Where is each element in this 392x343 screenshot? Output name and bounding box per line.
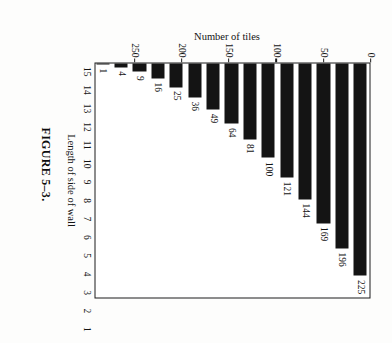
plot-frame: 149162536496481100121144169196225 xyxy=(94,62,370,298)
bar-row: 4 xyxy=(114,63,127,299)
category-axis-title: Length of side of wall xyxy=(65,62,76,298)
bar-value-label: 100 xyxy=(263,161,273,175)
bar-chart: 050100150200250 Number of tiles 14916253… xyxy=(80,30,370,298)
bar xyxy=(335,63,348,248)
category-axis: 123456789101112131415 xyxy=(76,62,94,298)
bar-value-label: 81 xyxy=(245,143,255,153)
bar-row: 9 xyxy=(132,63,145,299)
bar xyxy=(353,63,366,275)
bar-row: 36 xyxy=(188,63,201,299)
bar xyxy=(132,63,145,71)
bar-value-label: 144 xyxy=(300,203,310,217)
bar-row: 225 xyxy=(353,63,366,299)
bar-row: 16 xyxy=(151,63,164,299)
rotated-figure-wrapper: 050100150200250 Number of tiles 14916253… xyxy=(0,0,392,343)
category-tick-label: 4 xyxy=(81,271,91,276)
value-tick-mark xyxy=(181,58,182,62)
bar-row: 81 xyxy=(243,63,256,299)
value-tick-label: 50 xyxy=(318,48,328,58)
value-tick-mark xyxy=(369,58,370,62)
category-tick-label: 15 xyxy=(81,66,91,76)
category-tick-label: 13 xyxy=(81,103,91,113)
bar-row: 100 xyxy=(261,63,274,299)
value-tick-mark xyxy=(228,58,229,62)
category-tick-label: 7 xyxy=(81,216,91,221)
category-tick-label: 8 xyxy=(81,198,91,203)
bar-value-label: 9 xyxy=(134,75,144,80)
category-tick-label: 5 xyxy=(81,253,91,258)
bar-value-label: 49 xyxy=(208,113,218,123)
bar-value-label: 196 xyxy=(337,252,347,266)
bar-value-label: 1 xyxy=(97,68,107,73)
figure-caption: FIGURE 5–3. xyxy=(37,30,52,298)
bar xyxy=(280,63,293,177)
bar xyxy=(316,63,329,223)
bar xyxy=(261,63,274,157)
bar-value-label: 16 xyxy=(153,82,163,92)
bar-value-label: 25 xyxy=(171,91,181,101)
bar-value-label: 169 xyxy=(318,227,328,241)
bar-value-label: 64 xyxy=(226,127,236,137)
bar-row: 121 xyxy=(280,63,293,299)
category-tick-label: 2 xyxy=(81,308,91,313)
value-tick-mark xyxy=(275,58,276,62)
bar xyxy=(151,63,164,78)
category-tick-label: 6 xyxy=(81,234,91,239)
bar xyxy=(169,63,182,87)
bar xyxy=(206,63,219,109)
bar xyxy=(114,63,127,67)
bar-value-label: 225 xyxy=(355,279,365,293)
bar-value-label: 121 xyxy=(281,181,291,195)
value-tick-label: 100 xyxy=(271,43,281,57)
category-tick-label: 14 xyxy=(81,85,91,95)
category-tick-label: 11 xyxy=(81,140,91,149)
bar xyxy=(298,63,311,199)
bar xyxy=(243,63,256,139)
category-tick-label: 10 xyxy=(81,158,91,168)
value-axis-title: Number of tiles xyxy=(117,31,337,42)
page-background: 050100150200250 Number of tiles 14916253… xyxy=(0,0,392,343)
bar-row: 169 xyxy=(316,63,329,299)
value-tick-mark xyxy=(133,58,134,62)
bar-row: 196 xyxy=(335,63,348,299)
value-tick-label: 250 xyxy=(129,43,139,57)
value-tick-label: 200 xyxy=(176,43,186,57)
bar xyxy=(188,63,201,97)
value-tick-label: 150 xyxy=(224,43,234,57)
bar-row: 49 xyxy=(206,63,219,299)
category-tick-label: 9 xyxy=(81,179,91,184)
bar-row: 1 xyxy=(96,63,109,299)
bar xyxy=(96,63,109,64)
bar-row: 64 xyxy=(224,63,237,299)
value-tick-label: 0 xyxy=(365,52,375,57)
category-tick-label: 3 xyxy=(81,290,91,295)
value-tick-mark xyxy=(322,58,323,62)
category-tick-label: 12 xyxy=(81,122,91,132)
bar-value-label: 36 xyxy=(189,101,199,111)
bars-container: 149162536496481100121144169196225 xyxy=(95,63,369,297)
bar-row: 25 xyxy=(169,63,182,299)
bar xyxy=(224,63,237,123)
figure: 050100150200250 Number of tiles 14916253… xyxy=(0,0,392,343)
category-tick-label: 1 xyxy=(81,326,91,331)
bar-row: 144 xyxy=(298,63,311,299)
bar-value-label: 4 xyxy=(116,71,126,76)
